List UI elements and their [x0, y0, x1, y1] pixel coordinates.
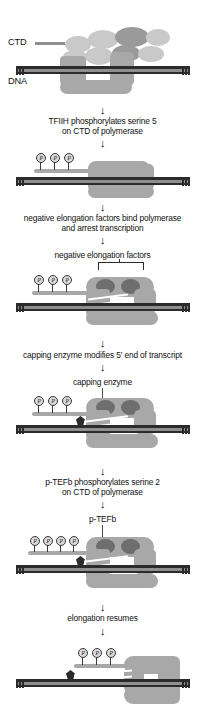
polymerase-body	[86, 311, 158, 325]
phosphate-icon: P	[62, 396, 72, 406]
stage-arrow: ↓	[0, 105, 205, 116]
caption-step-1-line2: on CTD of polymerase	[0, 126, 205, 136]
phosphate-icon: P	[62, 275, 72, 285]
label-negative-elongation-factors: negative elongation factors	[0, 250, 205, 260]
caption-step-2-line1: negative elongation factors bind polymer…	[0, 213, 205, 223]
label-capping-enzyme: capping enzyme	[0, 377, 205, 387]
panel-capped: P P P	[0, 396, 205, 458]
phosphate-icon: P	[78, 648, 88, 658]
caption-step-2-line2: and arrest transcription	[0, 223, 205, 233]
label-ptefb: p-TEFb	[0, 514, 205, 524]
dna-duplex	[16, 66, 190, 75]
dna-duplex	[16, 679, 190, 688]
phosphate-icon: P	[106, 648, 116, 658]
phosphate-icon: P	[50, 153, 60, 163]
caption-step-4-line2: on CTD of polymerase	[0, 487, 205, 497]
panel-elongation: P P P	[0, 643, 205, 709]
dna-duplex	[16, 303, 190, 312]
phosphate-icon: P	[34, 396, 44, 406]
caption-step-3-line1: capping enzyme modifies 5′ end of transc…	[0, 350, 205, 360]
stage-arrow: ↓	[0, 362, 205, 373]
gtf-blob-icon	[146, 29, 170, 46]
gtf-blob-icon	[88, 30, 118, 49]
stage-arrow: ↓	[0, 202, 205, 213]
stage-arrow: ↓	[0, 235, 205, 246]
ctd-tail	[34, 169, 96, 173]
phosphate-icon: P	[92, 648, 102, 658]
caption-step-1-line1: TFIIH phosphorylates serine 5	[0, 116, 205, 126]
phosphate-icon: P	[43, 536, 53, 546]
gtf-blob-icon	[138, 46, 164, 62]
phosphate-icon: P	[48, 396, 58, 406]
stage-arrow: ↓	[0, 138, 205, 149]
label-ctd: CTD	[8, 37, 27, 47]
dna-duplex	[16, 565, 190, 574]
figure-root: CTD DNA ↓ TFIIH phosphorylates serine 5 …	[0, 0, 205, 711]
dna-duplex	[16, 177, 190, 186]
panel-nef-bound: P P P	[0, 269, 205, 329]
nef-bracket-stem	[119, 259, 120, 263]
polymerase-body	[86, 574, 158, 588]
panel-ptefb: P P P P	[0, 534, 205, 598]
stage-arrow: ↓	[0, 602, 205, 613]
phosphate-icon: P	[56, 536, 66, 546]
gtf-blob-icon	[115, 27, 149, 47]
stage-arrow: ↓	[0, 499, 205, 510]
dna-duplex	[16, 425, 190, 434]
polymerase-body	[86, 434, 158, 448]
stage-arrow: ↓	[0, 466, 205, 477]
gtf-blob-icon	[85, 47, 113, 65]
caption-step-5-line1: elongation resumes	[0, 613, 205, 623]
stage-arrow: ↓	[0, 626, 205, 637]
phosphate-icon: P	[48, 275, 58, 285]
caption-step-4-line1: p-TEFb phosphorylates serine 2	[0, 477, 205, 487]
phosphate-icon: P	[69, 536, 79, 546]
panel-initiation: CTD DNA	[0, 22, 205, 94]
stage-arrow: ↓	[0, 338, 205, 349]
panel-ser5-phos: P P P	[0, 152, 205, 200]
phosphate-icon: P	[36, 153, 46, 163]
phosphate-icon: P	[30, 536, 40, 546]
label-dna: DNA	[8, 76, 27, 86]
phosphate-icon: P	[64, 153, 74, 163]
phosphate-icon: P	[34, 275, 44, 285]
ctd-pointer-line	[35, 42, 65, 45]
